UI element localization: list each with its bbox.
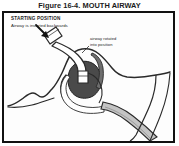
figure-container: Figure 16-4. MOUTH AIRWAY — [0, 0, 179, 146]
figure-caption: Figure 16-4. MOUTH AIRWAY — [0, 1, 179, 10]
figure-frame: STARTING POSITION Airway is inserted bac… — [2, 11, 175, 143]
mouth-airway-illustration — [4, 13, 173, 141]
airway-tip — [78, 71, 88, 83]
